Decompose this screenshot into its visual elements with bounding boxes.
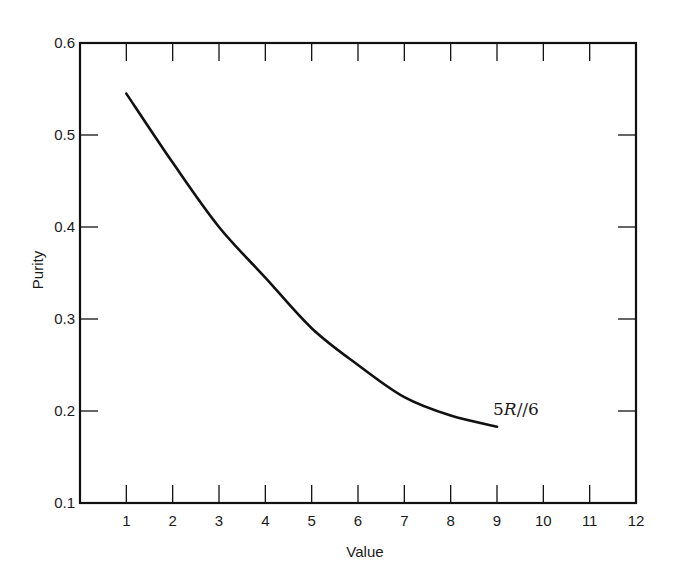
x-tick-label: 9	[493, 512, 501, 529]
x-tick-label: 12	[628, 512, 645, 529]
x-tick-label: 6	[354, 512, 362, 529]
x-tick-label: 10	[535, 512, 552, 529]
x-tick-label: 11	[582, 512, 598, 529]
y-tick-label: 0.5	[54, 126, 75, 143]
purity-chart: 123456789101112 0.10.20.30.40.50.6 Value…	[0, 0, 674, 580]
curve-annotation: 5R//6	[493, 399, 539, 419]
x-tick-label: 8	[446, 512, 454, 529]
x-tick-label: 5	[307, 512, 315, 529]
x-tick-label: 7	[400, 512, 408, 529]
x-axis-ticks: 123456789101112	[122, 43, 644, 529]
y-tick-label: 0.4	[54, 218, 75, 235]
x-tick-label: 1	[122, 512, 130, 529]
y-axis-ticks: 0.10.20.30.40.50.6	[54, 34, 636, 511]
x-axis-label: Value	[346, 543, 383, 560]
plot-frame	[80, 43, 636, 503]
purity-curve	[126, 94, 497, 427]
y-tick-label: 0.1	[54, 494, 75, 511]
x-tick-label: 3	[215, 512, 223, 529]
y-tick-label: 0.6	[54, 34, 75, 51]
y-tick-label: 0.2	[54, 402, 75, 419]
y-tick-label: 0.3	[54, 310, 75, 327]
plot-border	[80, 43, 636, 503]
x-tick-label: 2	[168, 512, 176, 529]
x-tick-label: 4	[261, 512, 269, 529]
y-axis-label: Purity	[29, 250, 46, 289]
